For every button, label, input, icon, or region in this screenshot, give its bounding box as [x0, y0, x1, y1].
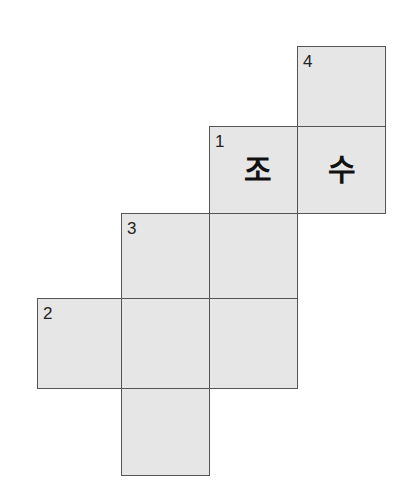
clue-number: 4 — [303, 53, 312, 70]
cell-r3-c1[interactable] — [121, 298, 210, 389]
cell-r0-c3[interactable]: 4 — [297, 46, 386, 127]
cell-r3-c2[interactable] — [209, 298, 298, 389]
cell-r3-c0[interactable]: 2 — [37, 298, 122, 389]
cell-r2-c2[interactable] — [209, 213, 298, 299]
clue-number: 1 — [215, 133, 224, 150]
clue-number: 2 — [43, 305, 52, 322]
cell-r4-c1[interactable] — [121, 388, 210, 476]
cell-r1-c3[interactable]: 수 — [297, 126, 386, 214]
cell-r2-c1[interactable]: 3 — [121, 213, 210, 299]
clue-number: 3 — [127, 220, 136, 237]
cell-char: 수 — [298, 155, 385, 185]
cell-r1-c2[interactable]: 1 조 — [209, 126, 298, 214]
crossword-grid: 4 1 조 수 3 2 — [0, 0, 410, 501]
cell-char: 조 — [210, 155, 297, 185]
